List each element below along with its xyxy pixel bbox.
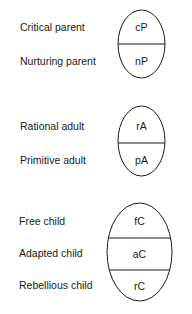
abbr-pa: pA bbox=[135, 154, 148, 166]
abbr-np: nP bbox=[135, 55, 148, 67]
abbr-ra: rA bbox=[136, 120, 147, 132]
ego-state-diagram: cP nP rA pA fC aC rC bbox=[0, 0, 192, 314]
abbr-fc: fC bbox=[134, 215, 145, 227]
adult-ellipse: rA pA bbox=[110, 106, 175, 176]
abbr-cp: cP bbox=[135, 21, 147, 33]
abbr-rc: rC bbox=[134, 280, 145, 292]
abbr-ac: aC bbox=[133, 248, 147, 260]
parent-ellipse: cP nP bbox=[110, 10, 175, 78]
child-ellipse: fC aC rC bbox=[100, 203, 180, 301]
